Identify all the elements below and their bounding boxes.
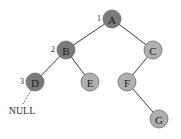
tree-node-f: F [118,73,136,91]
node-label: G [155,114,163,126]
tree-node-d: D3 [20,73,44,91]
node-label: A [108,14,116,26]
node-label: C [149,45,156,57]
tree-node-e: E [81,73,99,91]
node-label: E [87,77,94,89]
node-label: F [124,77,130,89]
tree-node-c: C [144,41,162,59]
binary-tree-diagram: NULLA1B2CD3EFG [0,0,181,139]
tree-node-g: G [150,110,168,128]
tree-node-b: B2 [51,41,75,59]
node-label: D [31,77,39,89]
node-label: B [62,45,69,57]
null-pointer-line [23,90,31,104]
visit-order-label: 2 [51,45,55,54]
visit-order-label: 3 [20,77,24,86]
tree-nodes: NULLA1B2CD3EFG [9,10,168,128]
visit-order-label: 1 [97,14,101,23]
tree-node-a: A1 [97,10,121,28]
null-label: NULL [9,105,36,116]
tree-edges [23,19,159,119]
